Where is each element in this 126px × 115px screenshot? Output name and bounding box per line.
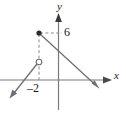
- y-value-label-6: 6: [64, 26, 70, 38]
- x-axis-label: x: [114, 70, 119, 81]
- open-circle-icon: [36, 59, 42, 65]
- y-axis: [55, 13, 62, 110]
- arrow-up-icon: [55, 13, 62, 22]
- x-value-label-negative-2: –2: [27, 82, 39, 94]
- filled-dot-icon: [36, 30, 41, 35]
- y-axis-label: y: [57, 1, 62, 12]
- arrow-down-right-icon: [92, 80, 100, 88]
- graph-canvas: [0, 0, 126, 115]
- piecewise-function-graph: y x 6 –2: [0, 0, 126, 115]
- descending-branch-line: [40, 34, 96, 85]
- arrow-right-icon: [103, 77, 112, 84]
